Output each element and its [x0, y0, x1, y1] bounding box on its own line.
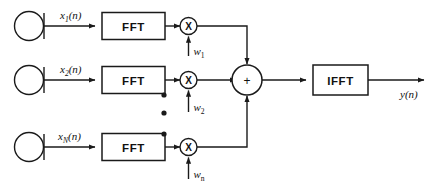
weight-label-n: wn — [194, 168, 205, 183]
input-label-1: x1(n) — [59, 9, 82, 24]
weight-label-2: w2 — [194, 101, 205, 116]
fft-block-label-1: FFT — [122, 21, 145, 33]
output-label: y(n) — [399, 88, 418, 101]
sensor-circle-n — [15, 133, 44, 162]
input-label-2: x2(n) — [59, 63, 82, 78]
multn-to-summer-path — [197, 96, 247, 147]
sensor-circle-2 — [15, 66, 44, 95]
summing-junction-glyph: + — [243, 74, 250, 88]
ifft-block-label: IFFT — [327, 75, 354, 87]
multiplier-glyph-1: X — [185, 21, 192, 32]
ellipsis-dot-3 — [161, 131, 166, 136]
multiplier-glyph-2: X — [185, 75, 192, 86]
fft-block-label-n: FFT — [122, 142, 145, 154]
diagram-canvas: x1(n) FFT X w1 x2(n) FFT X w2 — [0, 0, 436, 194]
multiplier-glyph-n: X — [185, 142, 192, 153]
fft-block-label-2: FFT — [122, 75, 145, 87]
ellipsis-dot-2 — [161, 110, 166, 115]
ellipsis-dot-1 — [161, 92, 166, 97]
input-label-n: xN(n) — [57, 130, 81, 145]
block-diagram: x1(n) FFT X w1 x2(n) FFT X w2 — [0, 0, 436, 194]
weight-label-1: w1 — [194, 45, 205, 60]
sensor-circle-1 — [15, 12, 44, 41]
